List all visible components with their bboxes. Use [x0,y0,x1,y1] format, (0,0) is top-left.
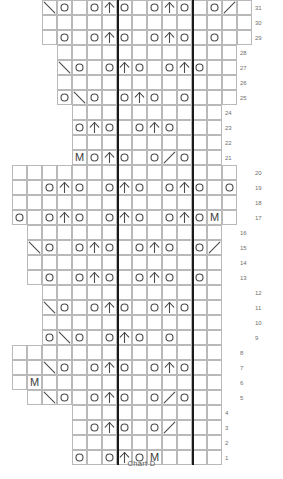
chart-cell [177,435,192,450]
chart-cell [207,75,222,90]
chart-cell [207,435,222,450]
chart-cell [162,210,177,225]
chart-cell [27,390,42,405]
chart-cell [117,285,132,300]
chart-cell [177,0,192,15]
chart-cell [162,270,177,285]
chart-cell [117,300,132,315]
chart-cell [147,255,162,270]
chart-cell [162,90,177,105]
chart-cell [177,285,192,300]
chart-cell [12,360,27,375]
chart-cell [72,210,87,225]
chart-cell [27,210,42,225]
chart-cell [117,150,132,165]
chart-cell [222,15,237,30]
chart-cell [57,75,72,90]
chart-cell [102,345,117,360]
chart-cell [147,330,162,345]
chart-cell [207,345,222,360]
chart-cell [117,390,132,405]
row-number-label: 14 [240,260,247,266]
row-number-label: 22 [225,140,232,146]
chart-cell [192,105,207,120]
chart-cell [132,285,147,300]
chart-cell [207,120,222,135]
chart-cell [87,60,102,75]
chart-cell [147,225,162,240]
chart-cell [207,225,222,240]
chart-cell [132,390,147,405]
chart-cell [42,210,57,225]
chart-cell [87,195,102,210]
chart-cell [192,90,207,105]
chart-cell [132,105,147,120]
chart-cell [102,270,117,285]
chart-cell [42,285,57,300]
chart-cell [42,240,57,255]
chart-cell [102,150,117,165]
chart-cell [57,210,72,225]
chart-cell [177,120,192,135]
chart-cell [147,390,162,405]
chart-cell [192,315,207,330]
chart-cell [192,135,207,150]
chart-cell [132,345,147,360]
chart-cell [57,390,72,405]
chart-cell [207,255,222,270]
chart-cell [72,15,87,30]
chart-cell [102,60,117,75]
chart-cell [57,270,72,285]
chart-cell [132,165,147,180]
chart-cell [117,435,132,450]
chart-cell [117,375,132,390]
chart-cell [132,195,147,210]
chart-cell [162,225,177,240]
chart-cell [162,150,177,165]
chart-cell [222,180,237,195]
chart-cell [162,255,177,270]
chart-cell [132,315,147,330]
chart-cell [117,210,132,225]
chart-cell [192,420,207,435]
chart-cell [72,405,87,420]
chart-cell [147,180,162,195]
chart-cell [132,90,147,105]
chart-cell [72,135,87,150]
chart-cell [87,30,102,45]
chart-cell [222,45,237,60]
chart-cell [147,15,162,30]
chart-cell [162,420,177,435]
chart-cell [162,135,177,150]
chart-cell [117,135,132,150]
chart-cell [147,0,162,15]
chart-cell [87,15,102,30]
chart-cell [192,330,207,345]
chart-cell [207,30,222,45]
row-number-label: 25 [240,95,247,101]
chart-cell [57,0,72,15]
chart-cell [192,405,207,420]
chart-cell [207,420,222,435]
chart-cell [162,60,177,75]
chart-cell [177,330,192,345]
chart-cell [192,195,207,210]
chart-cell [87,285,102,300]
chart-cell [117,405,132,420]
chart-cell [192,120,207,135]
chart-cell [222,75,237,90]
chart-cell [177,225,192,240]
row-number-label: 26 [240,80,247,86]
chart-cell [192,375,207,390]
chart-cell [117,15,132,30]
chart-cell [147,150,162,165]
chart-cell [147,315,162,330]
chart-cell [237,15,252,30]
chart-cell [12,345,27,360]
chart-cell [132,75,147,90]
chart-cell [102,405,117,420]
chart-cell [27,225,42,240]
chart-cell [162,405,177,420]
chart-cell [132,375,147,390]
chart-cell [57,60,72,75]
